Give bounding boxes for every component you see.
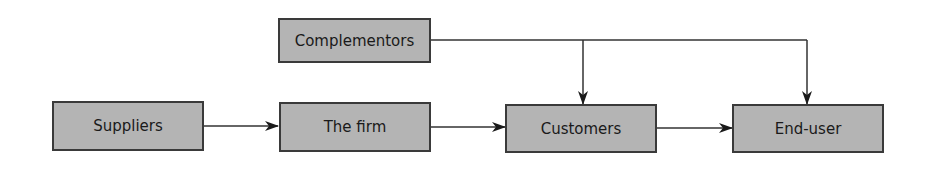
node-label: The firm	[324, 118, 387, 136]
node-customers: Customers	[505, 104, 657, 153]
node-label: Customers	[541, 120, 622, 138]
node-label: Complementors	[295, 32, 415, 50]
node-end-user: End-user	[732, 104, 884, 153]
node-the-firm: The firm	[279, 102, 431, 152]
node-label: Suppliers	[93, 117, 163, 135]
node-suppliers: Suppliers	[52, 101, 204, 151]
node-complementors: Complementors	[278, 18, 431, 63]
node-label: End-user	[775, 120, 842, 138]
